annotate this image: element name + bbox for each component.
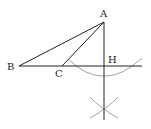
point-label-A: A [99, 8, 108, 19]
segment-AC [62, 22, 104, 66]
construction-arcs [68, 58, 142, 118]
point-label-B: B [7, 61, 14, 72]
point-label-C: C [55, 68, 63, 79]
geometry-diagram: ABCH [0, 0, 151, 129]
segment-AB [19, 22, 104, 66]
point-label-H: H [108, 54, 117, 65]
arc-centered-A [68, 58, 142, 76]
